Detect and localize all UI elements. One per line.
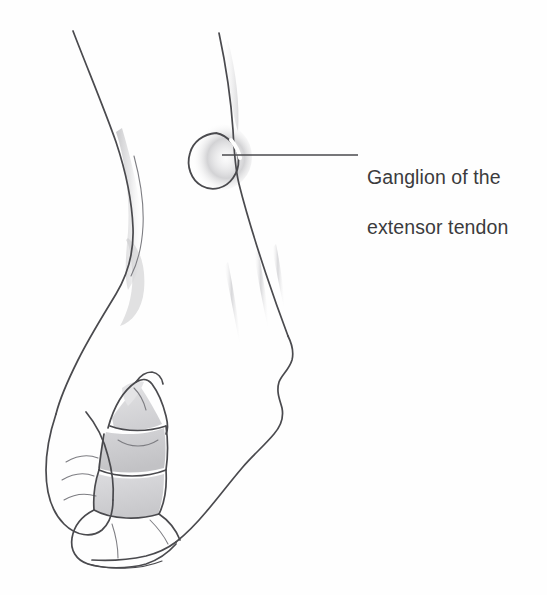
illustration-canvas: Ganglion of the extensor tendon xyxy=(0,0,547,595)
extensor-tendon-shade-1 xyxy=(224,262,241,350)
ulnar-knuckle-contour xyxy=(176,336,293,542)
finger-shading-group xyxy=(94,381,166,517)
thumb-contour xyxy=(46,414,113,535)
extensor-tendon-shade-3 xyxy=(272,244,285,312)
finger-2-right-edge xyxy=(166,426,168,470)
thumb-crease-1 xyxy=(66,456,98,462)
ulnar-border-shading xyxy=(222,40,239,132)
thumb-crease-3 xyxy=(64,494,96,500)
thumb-crease-2 xyxy=(62,474,94,480)
finger-4-crease xyxy=(112,524,118,558)
radial-contour xyxy=(56,31,133,414)
outline-group xyxy=(46,31,293,568)
annotation-label-line-2: extensor tendon xyxy=(367,215,537,240)
knuckle-segment-lower xyxy=(94,474,164,517)
finger-4-top-edge xyxy=(159,514,180,540)
hand-illustration-svg xyxy=(0,0,547,595)
annotation-label: Ganglion of the extensor tendon xyxy=(367,140,537,265)
palm-base-contour xyxy=(92,542,176,560)
finger-3-crease xyxy=(150,520,168,544)
knuckle-segment-middle xyxy=(98,428,166,473)
annotation-label-line-1: Ganglion of the xyxy=(367,165,537,190)
